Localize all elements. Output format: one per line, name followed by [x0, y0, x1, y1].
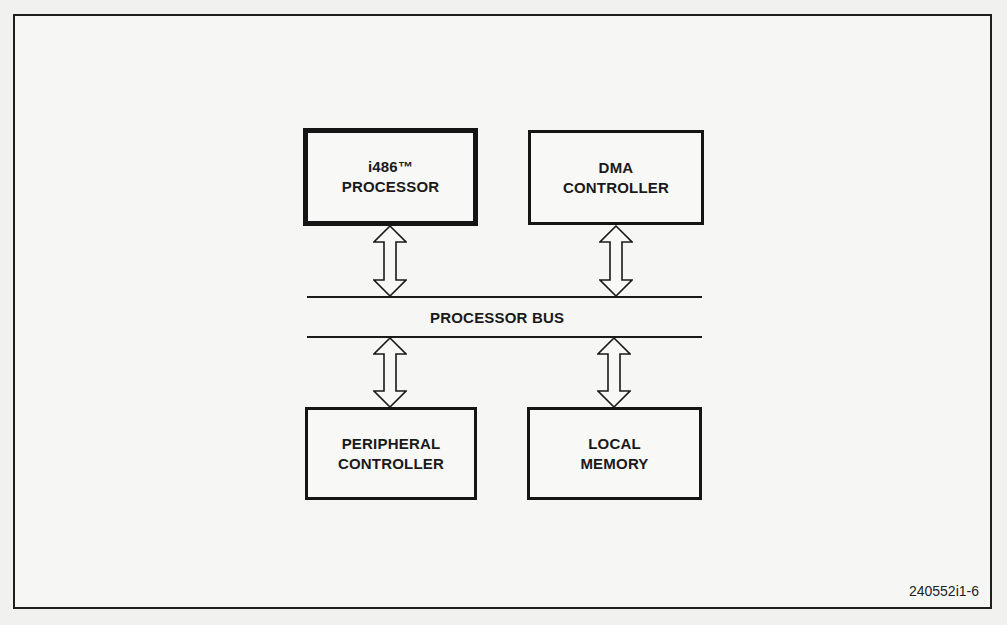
peripheral-label-line1: PERIPHERAL: [342, 434, 441, 454]
dma-label-line2: CONTROLLER: [563, 178, 669, 198]
processor-label-line1: i486™: [368, 157, 413, 177]
local-memory-block: LOCAL MEMORY: [527, 407, 702, 500]
bidirectional-arrow-icon: [599, 225, 633, 297]
peripheral-controller-block: PERIPHERAL CONTROLLER: [305, 407, 477, 500]
figure-id: 240552i1-6: [909, 583, 979, 599]
bidirectional-arrow-icon: [373, 337, 407, 408]
bus-label: PROCESSOR BUS: [430, 309, 564, 326]
memory-label-line1: LOCAL: [588, 434, 641, 454]
bus-line-top: [307, 296, 702, 298]
bus-line-bottom: [307, 336, 702, 338]
peripheral-label-line2: CONTROLLER: [338, 454, 444, 474]
dma-label-line1: DMA: [599, 158, 634, 178]
bidirectional-arrow-icon: [597, 337, 631, 408]
processor-block: i486™ PROCESSOR: [303, 128, 478, 226]
dma-controller-block: DMA CONTROLLER: [528, 130, 704, 225]
processor-label-line2: PROCESSOR: [342, 177, 440, 197]
memory-label-line2: MEMORY: [580, 454, 648, 474]
bidirectional-arrow-icon: [373, 225, 407, 297]
